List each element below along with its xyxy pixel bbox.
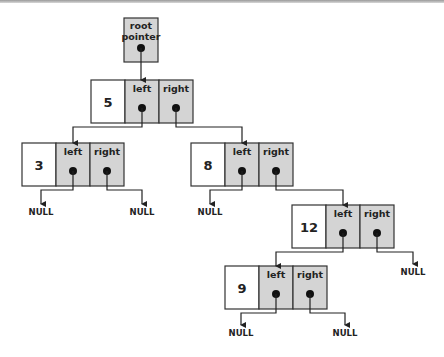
binary-tree-diagram: root pointer 5leftright3leftright8leftri… xyxy=(0,0,444,357)
node-value: 12 xyxy=(300,220,318,235)
left-field-label: left xyxy=(334,208,353,219)
node-value: 9 xyxy=(237,281,246,296)
right-field-label: right xyxy=(94,146,121,157)
left-field-label: left xyxy=(133,83,152,94)
node-value: 8 xyxy=(203,158,212,173)
right-field-label: right xyxy=(297,269,324,280)
null-label: NULL xyxy=(130,207,155,217)
null-label: NULL xyxy=(401,267,426,277)
right-field-label: right xyxy=(163,83,190,94)
right-field-label: right xyxy=(263,146,290,157)
null-label: NULL xyxy=(229,328,254,338)
null-label: NULL xyxy=(198,207,223,217)
right-field-label: right xyxy=(364,208,391,219)
node-value: 3 xyxy=(34,158,43,173)
null-label: NULL xyxy=(333,328,358,338)
left-field-label: left xyxy=(64,146,83,157)
left-field-label: left xyxy=(233,146,252,157)
null-label: NULL xyxy=(29,207,54,217)
root-pointer-label-line2: pointer xyxy=(121,31,160,42)
node-value: 5 xyxy=(103,95,112,110)
left-field-label: left xyxy=(267,269,286,280)
root-pointer-label-line1: root xyxy=(130,20,153,31)
